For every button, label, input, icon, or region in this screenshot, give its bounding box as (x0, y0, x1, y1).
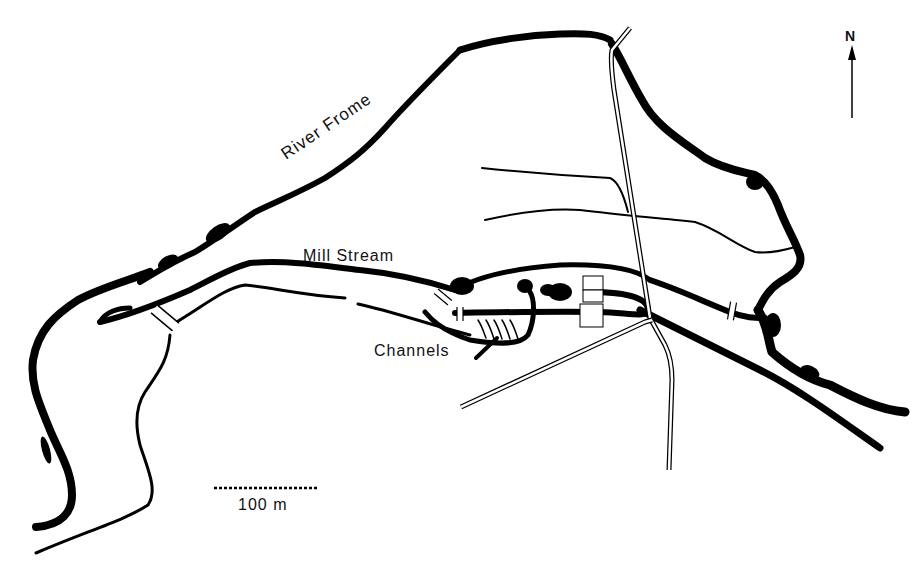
bridge-west (151, 305, 179, 331)
bridge-mill-south (457, 307, 463, 321)
site-map: River Frome Mill Stream Channels N 100 m (0, 0, 923, 568)
mill-stream-label: Mill Stream (303, 247, 394, 264)
north-label: N (845, 28, 856, 44)
north-arrow-icon (848, 45, 856, 60)
scale-bar-label: 100 m (238, 496, 287, 513)
mill-building (580, 276, 603, 327)
channels-label: Channels (374, 342, 450, 359)
bridge-mill-north (434, 289, 452, 305)
north-arrow: N (845, 28, 856, 118)
bridge-east (727, 302, 736, 321)
channels-hatching (478, 320, 518, 339)
mill-stream (100, 262, 880, 448)
scale-bar: 100 m (214, 488, 318, 513)
